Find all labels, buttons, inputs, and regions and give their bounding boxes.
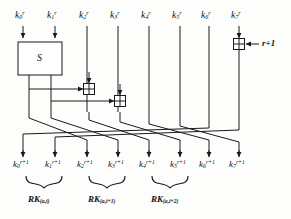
round-key-label-0: RK(a,i) <box>28 195 49 205</box>
input-label-k5: k5r <box>172 10 182 20</box>
output-label-k3: k3r+1 <box>108 160 124 170</box>
input-label-k3: k3r <box>110 10 120 20</box>
xor-gate-1 <box>84 84 95 95</box>
input-label-k7: k7r <box>231 10 241 20</box>
sbox-label: S <box>37 53 42 63</box>
output-label-k1: k1r+1 <box>45 160 61 170</box>
diagram-canvas: k0r k1r k2r k3r k4r k5r k6r k7r S r+1 k0… <box>0 0 291 219</box>
output-label-k2: k2r+1 <box>77 160 93 170</box>
round-key-braces <box>26 176 188 188</box>
input-label-k6: k6r <box>201 10 211 20</box>
round-key-label-1: RK(a,i+1) <box>88 195 115 205</box>
brace-rk-0 <box>26 176 62 188</box>
round-constant-label: r+1 <box>262 39 275 48</box>
output-label-k7: k7r+1 <box>229 160 245 170</box>
output-label-k0: k0r+1 <box>13 160 29 170</box>
input-label-k4: k4r <box>141 10 151 20</box>
input-label-k1: k1r <box>47 10 57 20</box>
input-label-k0: k0r <box>15 10 25 20</box>
output-label-k4: k4r+1 <box>139 160 155 170</box>
xor-gate-2 <box>115 96 126 107</box>
brace-rk-1 <box>89 176 125 188</box>
input-label-k2: k2r <box>79 10 89 20</box>
round-key-label-2: RK(a,i+2) <box>151 195 178 205</box>
output-label-k5: k5r+1 <box>170 160 186 170</box>
diagram-svg <box>0 0 291 219</box>
output-label-k6: k6r+1 <box>199 160 215 170</box>
output-arrow-group <box>23 150 239 157</box>
brace-rk-2 <box>152 176 188 188</box>
xor-gate-round-constant <box>234 39 245 50</box>
permutation-network <box>23 112 239 152</box>
perm-wire-3 <box>120 112 180 152</box>
